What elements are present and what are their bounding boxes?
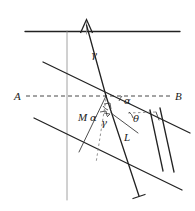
label-gamma-upper: γ <box>91 49 97 60</box>
label-length-l: L <box>123 131 130 143</box>
angle-arc-marks-alpha <box>103 106 108 110</box>
prism-edge-right <box>160 108 174 172</box>
label-length-m: M <box>77 111 88 123</box>
refracted-ray <box>106 96 139 196</box>
label-gamma-lower: γ <box>101 117 107 128</box>
geometry-figure: A B γ α θ M L α γ <box>0 0 195 211</box>
label-alpha-upper: α <box>124 95 131 106</box>
label-theta: θ <box>133 113 139 124</box>
label-point-b: B <box>175 90 182 102</box>
figure-canvas: A B γ α θ M L α γ <box>0 0 195 211</box>
theta-tick <box>156 112 159 120</box>
label-point-a: A <box>13 90 21 102</box>
label-alpha-lower: α <box>90 112 97 123</box>
upper-parallel-slant-line <box>43 62 190 133</box>
vertical-dashed-drop-line <box>96 99 106 163</box>
incident-ray <box>87 25 107 96</box>
